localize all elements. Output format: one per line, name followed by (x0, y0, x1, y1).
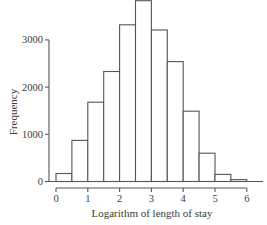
x-axis: 0123456 (53, 188, 249, 204)
histogram-bar (167, 62, 183, 182)
histogram-bar (183, 111, 199, 181)
histogram-bar (215, 174, 231, 181)
y-tick-label: 2000 (22, 82, 43, 93)
histogram-bar (151, 30, 167, 182)
x-tick-label: 4 (181, 193, 187, 204)
y-tick-label: 0 (38, 176, 43, 187)
histogram-bar (72, 140, 88, 181)
y-axis: 0100020003000 (22, 34, 49, 187)
histogram-bar (104, 72, 120, 182)
histogram-bar (88, 102, 104, 181)
y-tick-label: 3000 (22, 34, 43, 45)
histogram-bar (56, 174, 72, 182)
x-tick-label: 1 (85, 193, 90, 204)
x-tick-label: 6 (244, 193, 249, 204)
x-tick-label: 2 (117, 193, 122, 204)
x-tick-label: 5 (212, 193, 217, 204)
x-tick-label: 3 (149, 193, 154, 204)
x-tick-label: 0 (53, 193, 58, 204)
histogram-bars (56, 1, 247, 182)
y-axis-label: Frequency (7, 88, 19, 135)
histogram-bar (120, 25, 136, 182)
histogram-bar (199, 153, 215, 181)
histogram-bar (136, 1, 152, 182)
y-tick-label: 1000 (22, 129, 43, 140)
histogram-chart: 0100020003000 0123456 Frequency Logarith… (0, 0, 267, 225)
x-axis-label: Logarithm of length of stay (92, 207, 213, 219)
